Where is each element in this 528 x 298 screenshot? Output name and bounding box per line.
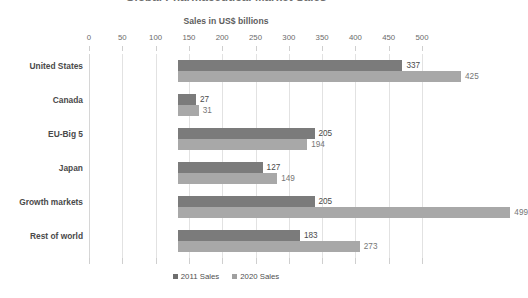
legend-swatch-icon <box>232 274 237 279</box>
x-axis-ticks-bottom <box>89 258 422 265</box>
bar-value-label: 425 <box>465 72 479 81</box>
x-tick-mark-300-bottom <box>289 258 290 264</box>
bar-group: 127149 <box>178 162 511 184</box>
bar[interactable] <box>178 173 277 184</box>
bar-value-label: 205 <box>319 197 333 206</box>
legend-label: 2011 Sales <box>181 272 219 281</box>
bar[interactable] <box>178 60 402 71</box>
bar-value-label: 31 <box>203 106 212 115</box>
x-tick-mark-400-bottom <box>355 258 356 264</box>
x-tick-label-250: 250 <box>249 33 262 42</box>
bar-value-label: 183 <box>304 231 318 240</box>
bar[interactable] <box>178 105 199 116</box>
bar-value-label: 337 <box>406 61 420 70</box>
gridline-50 <box>122 54 123 258</box>
bar-value-label: 273 <box>364 242 378 251</box>
legend-item[interactable]: 2020 Sales <box>232 272 279 281</box>
gridline-200 <box>222 54 223 258</box>
x-tick-label-350: 350 <box>316 33 329 42</box>
bar-value-label: 194 <box>311 140 325 149</box>
x-tick-mark-250-top <box>256 46 257 51</box>
x-tick-label-400: 400 <box>349 33 362 42</box>
x-tick-label-50: 50 <box>118 33 127 42</box>
legend-swatch-icon <box>173 274 178 279</box>
bar-group: 205194 <box>178 128 511 150</box>
gridline-500 <box>422 54 423 258</box>
x-tick-mark-50-top <box>122 46 123 51</box>
bar-group: 183273 <box>178 230 511 252</box>
x-tick-label-200: 200 <box>216 33 229 42</box>
chart-legend: 2011 Sales2020 Sales <box>0 272 452 281</box>
x-tick-mark-450-bottom <box>389 258 390 264</box>
bar-group: 205499 <box>178 196 511 218</box>
gridline-100 <box>156 54 157 258</box>
x-tick-mark-150-top <box>189 46 190 51</box>
category-label: Rest of world <box>0 231 83 241</box>
bar[interactable] <box>178 241 360 252</box>
x-tick-label-0: 0 <box>87 33 91 42</box>
x-tick-label-300: 300 <box>282 33 295 42</box>
bar[interactable] <box>178 128 315 139</box>
bar[interactable] <box>178 196 315 207</box>
bar[interactable] <box>178 139 307 150</box>
x-tick-mark-0-top <box>89 46 90 51</box>
bar-value-label: 205 <box>319 129 333 138</box>
x-tick-mark-100-bottom <box>156 258 157 264</box>
category-label: Canada <box>0 95 83 105</box>
x-tick-mark-50-bottom <box>122 258 123 264</box>
gridline-350 <box>322 54 323 258</box>
x-axis-ticks-top <box>89 46 422 53</box>
bar-value-label: 499 <box>514 208 528 217</box>
bar-value-label: 27 <box>200 95 209 104</box>
x-tick-label-100: 100 <box>149 33 162 42</box>
x-tick-mark-100-top <box>156 46 157 51</box>
gridline-400 <box>355 54 356 258</box>
category-label: United States <box>0 61 83 71</box>
x-tick-mark-350-bottom <box>322 258 323 264</box>
gridline-0 <box>89 54 90 258</box>
plot-area: 3374252731205194127149205499183273 <box>89 54 422 258</box>
chart-subtitle: Sales in US$ billions <box>0 16 452 26</box>
bar[interactable] <box>178 71 461 82</box>
bar[interactable] <box>178 94 196 105</box>
x-tick-mark-350-top <box>322 46 323 51</box>
x-tick-label-450: 450 <box>382 33 395 42</box>
gridline-450 <box>389 54 390 258</box>
bar-group: 2731 <box>178 94 511 116</box>
x-tick-mark-300-top <box>289 46 290 51</box>
category-label: EU-Big 5 <box>0 129 83 139</box>
gridline-300 <box>289 54 290 258</box>
legend-label: 2020 Sales <box>240 272 279 281</box>
legend-item[interactable]: 2011 Sales <box>173 272 219 281</box>
x-tick-label-500: 500 <box>415 33 428 42</box>
x-tick-mark-200-top <box>222 46 223 51</box>
bar[interactable] <box>178 162 263 173</box>
bar[interactable] <box>178 230 300 241</box>
x-tick-mark-450-top <box>389 46 390 51</box>
x-tick-mark-500-bottom <box>422 258 423 264</box>
bar-value-label: 127 <box>267 163 281 172</box>
bar[interactable] <box>178 207 510 218</box>
chart-title: Global Pharmaceutical Market Sales <box>0 0 452 3</box>
x-axis-tick-labels: 050100150200250300350400450500 <box>89 33 422 45</box>
category-label: Growth markets <box>0 197 83 207</box>
gridline-150 <box>189 54 190 258</box>
x-tick-mark-0-bottom <box>89 258 90 264</box>
x-tick-mark-200-bottom <box>222 258 223 264</box>
x-tick-mark-500-top <box>422 46 423 51</box>
x-tick-mark-150-bottom <box>189 258 190 264</box>
x-tick-label-150: 150 <box>182 33 195 42</box>
gridline-250 <box>256 54 257 258</box>
bar-group: 337425 <box>178 60 511 82</box>
bar-value-label: 149 <box>281 174 295 183</box>
x-tick-mark-400-top <box>355 46 356 51</box>
x-tick-mark-250-bottom <box>256 258 257 264</box>
category-label: Japan <box>0 163 83 173</box>
